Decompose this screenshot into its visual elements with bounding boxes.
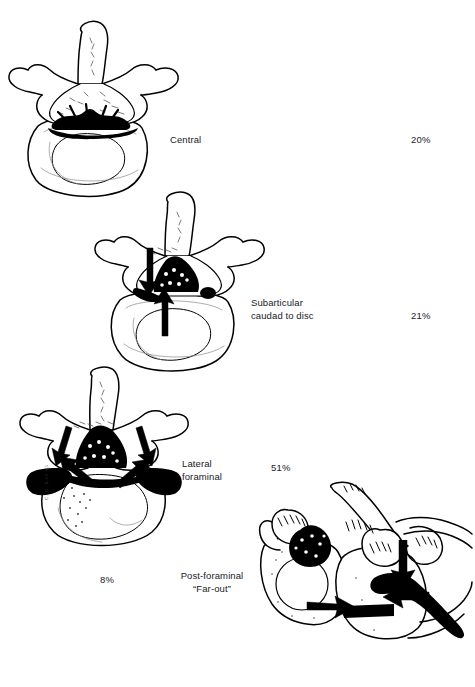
artist-signature: C. O. BAY 85 bbox=[44, 465, 49, 500]
arrow-group-far-out bbox=[305, 540, 430, 620]
nerve-root-right bbox=[200, 287, 216, 299]
percent-lateral-foraminal: 51% bbox=[271, 462, 291, 473]
label-post-foraminal: Post-foraminal “Far-out” bbox=[152, 570, 272, 595]
vertebra-illustration-central bbox=[8, 18, 183, 198]
percent-post-foraminal: 8% bbox=[92, 574, 122, 585]
arrow-group-lateral-foraminal bbox=[38, 424, 173, 504]
arrow-group-subarticular bbox=[130, 240, 190, 350]
page-bleed-through bbox=[30, 670, 35, 680]
figure-lumbar-disc-herniation: Central 20% bbox=[0, 0, 475, 687]
percent-central: 20% bbox=[411, 134, 431, 145]
percent-subarticular: 21% bbox=[411, 310, 431, 321]
label-subarticular: Subarticular caudad to disc bbox=[251, 297, 314, 322]
label-lateral-foraminal: Lateral foraminal bbox=[182, 458, 222, 483]
label-central: Central bbox=[170, 134, 201, 147]
